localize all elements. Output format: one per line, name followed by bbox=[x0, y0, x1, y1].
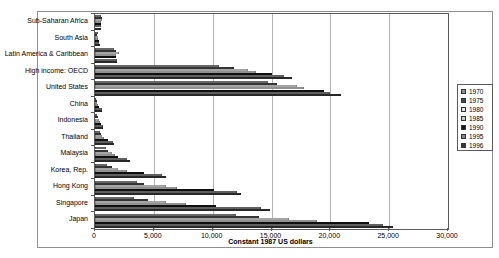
category-tick-mark bbox=[91, 129, 94, 130]
x-tick-mark bbox=[94, 228, 95, 231]
legend-swatch-1985 bbox=[461, 116, 466, 121]
legend: 1970197519801985199019951996 bbox=[457, 84, 493, 151]
legend-label: 1985 bbox=[469, 114, 483, 123]
category-label: Malaysia bbox=[0, 145, 90, 162]
legend-entry: 1996 bbox=[458, 141, 492, 150]
x-tick-mark bbox=[329, 228, 330, 231]
x-tick-mark bbox=[447, 228, 448, 231]
category-tick-mark bbox=[91, 211, 94, 212]
bar-cluster bbox=[95, 31, 448, 48]
category-label: Indonesia bbox=[0, 112, 90, 129]
legend-entry: 1995 bbox=[458, 132, 492, 141]
bar-1996 bbox=[95, 77, 292, 79]
bar-cluster bbox=[95, 163, 448, 180]
legend-label: 1975 bbox=[469, 96, 483, 105]
category-tick-mark bbox=[91, 96, 94, 97]
bar-1996 bbox=[95, 28, 101, 30]
category-tick-mark bbox=[91, 112, 94, 113]
x-tick-mark bbox=[388, 228, 389, 231]
legend-swatch-1970 bbox=[461, 89, 466, 94]
category-tick-mark bbox=[91, 162, 94, 163]
bar-cluster bbox=[95, 113, 448, 130]
category-tick-mark bbox=[91, 30, 94, 31]
category-label: China bbox=[0, 96, 90, 113]
bar-1996 bbox=[95, 127, 103, 129]
category-tick-mark bbox=[91, 145, 94, 146]
bar-1996 bbox=[95, 176, 166, 178]
legend-swatch-1996 bbox=[461, 143, 466, 148]
legend-entry: 1985 bbox=[458, 114, 492, 123]
x-tick-mark bbox=[212, 228, 213, 231]
legend-label: 1995 bbox=[469, 132, 483, 141]
x-tick-mark bbox=[153, 228, 154, 231]
category-tick-mark bbox=[91, 195, 94, 196]
bar-cluster bbox=[95, 146, 448, 163]
bar-cluster bbox=[95, 212, 448, 229]
plot-area bbox=[94, 13, 449, 230]
legend-label: 1980 bbox=[469, 105, 483, 114]
bar-1996 bbox=[95, 110, 102, 112]
category-tick-mark bbox=[91, 178, 94, 179]
bar-cluster bbox=[95, 14, 448, 31]
category-tick-mark bbox=[91, 46, 94, 47]
bar-1996 bbox=[95, 94, 341, 96]
category-label: Korea, Rep. bbox=[0, 162, 90, 179]
bar-cluster bbox=[95, 97, 448, 114]
category-tick-mark bbox=[91, 228, 94, 229]
category-label: Japan bbox=[0, 211, 90, 228]
bar-1996 bbox=[95, 209, 270, 211]
category-label: Sub-Saharan Africa bbox=[0, 13, 90, 30]
category-label: Singapore bbox=[0, 195, 90, 212]
bar-cluster bbox=[95, 64, 448, 81]
legend-entry: 1990 bbox=[458, 123, 492, 132]
category-tick-mark bbox=[91, 13, 94, 14]
legend-swatch-1995 bbox=[461, 134, 466, 139]
category-label: South Asia bbox=[0, 30, 90, 47]
category-tick-mark bbox=[91, 79, 94, 80]
legend-label: 1970 bbox=[469, 87, 483, 96]
legend-label: 1996 bbox=[469, 141, 483, 150]
bar-cluster bbox=[95, 196, 448, 213]
bar-cluster bbox=[95, 80, 448, 97]
bar-cluster bbox=[95, 47, 448, 64]
category-label: Thailand bbox=[0, 129, 90, 146]
bar-1996 bbox=[95, 160, 130, 162]
category-label: United States bbox=[0, 79, 90, 96]
category-tick-mark bbox=[91, 63, 94, 64]
x-tick-mark bbox=[271, 228, 272, 231]
bar-chart-figure: Sub-Saharan AfricaSouth AsiaLatin Americ… bbox=[0, 0, 499, 258]
category-label: High income: OECD bbox=[0, 63, 90, 80]
category-label: Latin America & Caribbean bbox=[0, 46, 90, 63]
x-axis-title: Constant 1987 US dollars bbox=[94, 238, 447, 245]
bar-1996 bbox=[95, 193, 241, 195]
category-label: Hong Kong bbox=[0, 178, 90, 195]
bar-cluster bbox=[95, 130, 448, 147]
legend-entry: 1975 bbox=[458, 96, 492, 105]
bar-cluster bbox=[95, 179, 448, 196]
bar-1996 bbox=[95, 44, 100, 46]
legend-entry: 1980 bbox=[458, 105, 492, 114]
legend-swatch-1990 bbox=[461, 125, 466, 130]
legend-entry: 1970 bbox=[458, 87, 492, 96]
legend-swatch-1975 bbox=[461, 98, 466, 103]
legend-label: 1990 bbox=[469, 123, 483, 132]
bar-1996 bbox=[95, 61, 117, 63]
category-axis-labels: Sub-Saharan AfricaSouth AsiaLatin Americ… bbox=[0, 13, 90, 228]
bar-1996 bbox=[95, 143, 114, 145]
legend-swatch-1980 bbox=[461, 107, 466, 112]
